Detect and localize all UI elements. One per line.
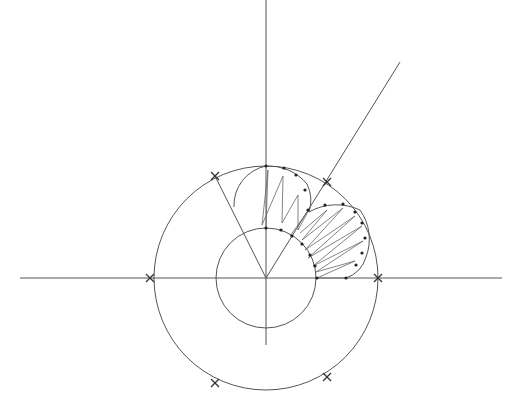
upper-lobe-arc [234, 166, 311, 212]
cross-mark-lower-left [211, 379, 219, 387]
cross-mark-lower-right [323, 373, 331, 381]
left-ray [215, 176, 266, 278]
diagonal-ray [266, 62, 400, 278]
geometric-diagram [0, 0, 519, 410]
right-zigzag [300, 208, 363, 278]
